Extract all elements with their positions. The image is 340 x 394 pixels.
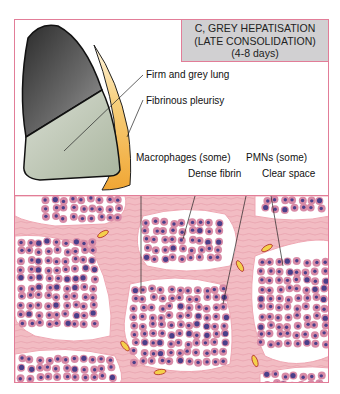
label-firm-grey-lung: Firm and grey lung bbox=[146, 69, 229, 80]
label-macrophages: Macrophages (some) bbox=[136, 152, 230, 163]
label-dense-fibrin: Dense fibrin bbox=[188, 168, 241, 179]
label-pmns: PMNs (some) bbox=[246, 152, 307, 163]
stage-title-line3: (4-8 days) bbox=[182, 47, 328, 60]
stage-title-line1: C, GREY HEPATISATION bbox=[182, 22, 328, 35]
histology-panel bbox=[14, 195, 329, 383]
label-clear-space: Clear space bbox=[262, 168, 315, 179]
label-fibrinous-pleurisy: Fibrinous pleurisy bbox=[146, 95, 224, 106]
stage-title-box: C, GREY HEPATISATION (LATE CONSOLIDATION… bbox=[181, 19, 329, 62]
stage-title-line2: (LATE CONSOLIDATION) bbox=[182, 35, 328, 48]
histology-illustration bbox=[15, 196, 329, 383]
